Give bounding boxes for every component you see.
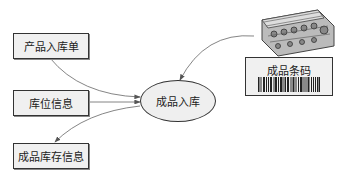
output-label: 成品库存信息: [18, 148, 84, 164]
engine-block-icon: [258, 6, 338, 58]
input-box-product-receipt: 产品入库单: [13, 33, 89, 59]
barcode-box: 成品条码: [245, 57, 333, 96]
barcode-icon: [258, 77, 320, 92]
barcode-label: 成品条码: [246, 62, 332, 78]
arrow-barcode-to-process: [180, 36, 254, 80]
input-label: 产品入库单: [24, 38, 79, 54]
process-label: 成品入库: [156, 93, 200, 109]
output-box-inventory-info: 成品库存信息: [13, 143, 89, 169]
input-label: 库位信息: [29, 95, 73, 111]
process-ellipse: 成品入库: [140, 80, 216, 122]
input-box-location-info: 库位信息: [13, 90, 89, 116]
